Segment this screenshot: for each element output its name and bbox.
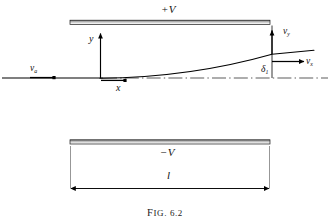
figure-container: +V −V y x va vy vx δ1 l FIG. 6.2: [0, 0, 330, 224]
bottom-plate: [70, 140, 270, 144]
vertical-velocity-subscript: y: [287, 31, 290, 37]
horizontal-velocity-label: vx: [306, 57, 313, 67]
horizontal-velocity-subscript: x: [310, 61, 313, 67]
deflection-subscript: 1: [266, 69, 269, 75]
initial-velocity-subscript: a: [34, 68, 37, 74]
electron-trajectory: [100, 50, 314, 78]
vertical-velocity-label: vy: [283, 27, 290, 37]
top-plate-voltage-label: +V: [161, 4, 176, 15]
deflection-label: δ1: [261, 65, 268, 75]
initial-velocity-label: va: [30, 64, 37, 74]
bottom-plate-voltage-label: −V: [160, 147, 175, 158]
figure-caption: FIG. 6.2: [0, 207, 330, 218]
deflection-symbol: δ: [261, 64, 265, 74]
x-axis-label: x: [116, 83, 120, 93]
top-plate: [70, 20, 270, 24]
deflection-diagram: [0, 0, 330, 224]
figure-caption-rest: IG. 6.2: [154, 208, 183, 218]
plate-length-label: l: [167, 170, 170, 181]
y-axis-label: y: [89, 34, 93, 44]
